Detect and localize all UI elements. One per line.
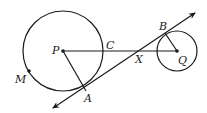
label-x: X: [134, 53, 144, 66]
point-m-dot: [27, 69, 31, 73]
label-c: C: [106, 39, 115, 52]
label-p: P: [51, 44, 60, 57]
geometry-diagram: P C M A X B Q: [0, 0, 207, 113]
segment-pa: [63, 51, 86, 91]
label-b: B: [158, 20, 167, 33]
label-a: A: [83, 92, 92, 105]
segment-qb: [165, 33, 177, 51]
label-m: M: [14, 73, 27, 86]
point-q-dot: [175, 49, 179, 53]
label-q: Q: [178, 54, 187, 67]
point-p-dot: [61, 49, 65, 53]
